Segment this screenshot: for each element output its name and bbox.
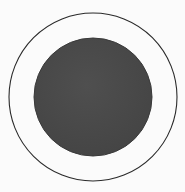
inner-dark-disc [34, 38, 152, 156]
circle-diagram [0, 0, 185, 192]
